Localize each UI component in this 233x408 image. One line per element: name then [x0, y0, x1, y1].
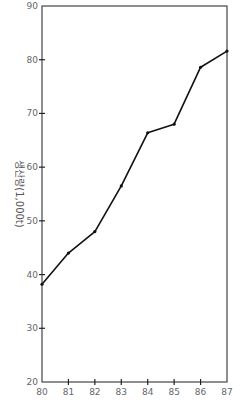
y-tick-label: 40	[27, 270, 39, 280]
x-tick-label: 85	[168, 387, 179, 397]
plot-frame	[42, 6, 227, 382]
y-tick-label: 20	[27, 377, 39, 387]
x-tick-label: 80	[36, 387, 48, 397]
x-tick-label: 83	[116, 387, 127, 397]
x-tick-label: 86	[195, 387, 207, 397]
data-point	[93, 230, 96, 233]
y-tick-label: 50	[27, 216, 39, 226]
y-tick-label: 60	[27, 162, 39, 172]
x-tick-label: 84	[142, 387, 154, 397]
x-tick-label: 81	[63, 387, 74, 397]
data-point	[173, 123, 176, 126]
y-tick-label: 30	[27, 323, 39, 333]
y-axis-title: 생산량(1,000t)	[14, 160, 25, 227]
x-tick-label: 82	[89, 387, 100, 397]
y-tick-label: 80	[27, 55, 39, 65]
x-tick-label: 87	[221, 387, 232, 397]
line-chart: 2030405060708090 8081828384858687 생산량(1,…	[0, 0, 233, 408]
y-tick-label: 90	[27, 1, 39, 11]
data-point	[40, 283, 43, 286]
data-point	[225, 50, 228, 53]
data-point	[120, 184, 123, 187]
y-tick-label: 70	[27, 108, 39, 118]
data-point	[67, 251, 70, 254]
data-point	[199, 66, 202, 69]
data-series	[40, 50, 228, 286]
series-line	[42, 51, 227, 284]
data-point	[146, 131, 149, 134]
